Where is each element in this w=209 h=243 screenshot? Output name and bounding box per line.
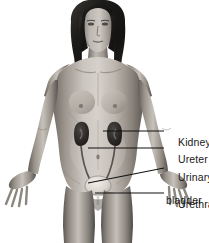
- navel: [96, 155, 99, 160]
- leg-right: [101, 186, 133, 243]
- breast-left: [69, 90, 95, 114]
- eye-left: [88, 23, 94, 26]
- nipple-right: [113, 104, 117, 108]
- eye-right: [102, 23, 108, 26]
- breast-right: [101, 90, 127, 114]
- anatomy-figure: Kidney Ureter Urinary bladder Urethra: [0, 0, 209, 243]
- label-urethra-text: Urethra: [178, 198, 209, 210]
- label-urethra: Urethra: [166, 187, 209, 222]
- nipple-left: [79, 104, 83, 108]
- leg-left: [63, 186, 95, 243]
- label-urinary-bladder-line1: Urinary: [178, 171, 209, 183]
